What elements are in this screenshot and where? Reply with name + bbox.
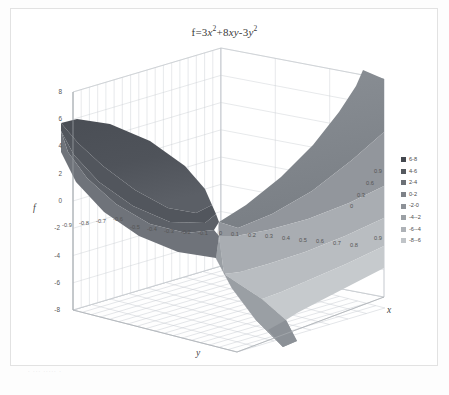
y-tick-0: 0 <box>219 230 222 236</box>
legend-item[interactable]: 2-4 <box>401 177 445 189</box>
x-tick-0.3: 0.3 <box>357 192 365 198</box>
x-axis-title: x <box>387 305 391 315</box>
z-tick-0: 0 <box>48 197 62 204</box>
scan-artifact-text: · ··· ····· · <box>28 368 62 374</box>
y-axis-title: y <box>196 348 200 358</box>
legend-label: 2-4 <box>409 177 417 189</box>
y-tick--0.9: -0.9 <box>62 222 72 228</box>
legend-item[interactable]: 6-8 <box>401 154 445 166</box>
legend-label: 4-6 <box>409 166 417 178</box>
z-axis-title: f <box>33 203 36 213</box>
y-tick--0.8: -0.8 <box>79 220 89 226</box>
z-tick-6: 6 <box>48 115 62 122</box>
x-tick-0: 0 <box>350 203 353 209</box>
legend-swatch-icon <box>401 204 406 209</box>
x-tick-0.6: 0.6 <box>366 180 374 186</box>
y-tick-0.8: 0.8 <box>350 242 358 248</box>
y-tick--0.3: -0.3 <box>164 228 174 234</box>
legend-label: -8--6 <box>409 235 421 247</box>
y-tick--0.1: -0.1 <box>198 230 208 236</box>
z-tick-2: 2 <box>48 170 62 177</box>
legend-label: 0-2 <box>409 189 417 201</box>
z-tick-neg4: -4 <box>46 252 60 259</box>
y-tick-0.7: 0.7 <box>333 240 341 246</box>
legend: 6-8 4-6 2-4 0-2 -2-0 -4--2 -6--4 -8--6 <box>401 154 445 247</box>
legend-swatch-icon <box>401 180 406 185</box>
legend-swatch-icon <box>401 238 406 243</box>
z-tick-4: 4 <box>48 142 62 149</box>
y-tick--0.2: -0.2 <box>181 229 191 235</box>
legend-label: -2-0 <box>409 200 419 212</box>
z-tick-8: 8 <box>48 88 62 95</box>
y-tick-0.5: 0.5 <box>299 237 307 243</box>
legend-label: -6--4 <box>409 224 421 236</box>
legend-item[interactable]: 0-2 <box>401 189 445 201</box>
legend-item[interactable]: -6--4 <box>401 224 445 236</box>
plot-canvas <box>0 0 449 395</box>
legend-item[interactable]: 4-6 <box>401 166 445 178</box>
y-tick--0.7: -0.7 <box>96 218 106 224</box>
legend-swatch-icon <box>401 192 406 197</box>
legend-item[interactable]: -2-0 <box>401 200 445 212</box>
legend-swatch-icon <box>401 227 406 232</box>
z-tick-neg6: -6 <box>46 279 60 286</box>
y-tick--0.4: -0.4 <box>147 226 157 232</box>
legend-item[interactable]: -4--2 <box>401 212 445 224</box>
legend-swatch-icon <box>401 169 406 174</box>
legend-label: 6-8 <box>409 154 417 166</box>
x-tick-0.9: 0.9 <box>374 168 382 174</box>
legend-label: -4--2 <box>409 212 421 224</box>
y-tick--0.6: -0.6 <box>113 216 123 222</box>
y-tick-0.4: 0.4 <box>282 235 290 241</box>
legend-swatch-icon <box>401 157 406 162</box>
y-tick-0.3: 0.3 <box>265 233 273 239</box>
surface-chart: f=3x2+8xy-3y2 <box>0 0 449 395</box>
y-tick-0.9: 0.9 <box>374 235 382 241</box>
z-tick-neg8: -8 <box>46 306 60 313</box>
y-tick-0.1: 0.1 <box>231 231 239 237</box>
legend-swatch-icon <box>401 215 406 220</box>
y-tick--0.5: -0.5 <box>130 224 140 230</box>
y-tick-0.6: 0.6 <box>316 238 324 244</box>
z-tick-neg2: -2 <box>46 224 60 231</box>
legend-item[interactable]: -8--6 <box>401 235 445 247</box>
y-tick-0.2: 0.2 <box>248 232 256 238</box>
